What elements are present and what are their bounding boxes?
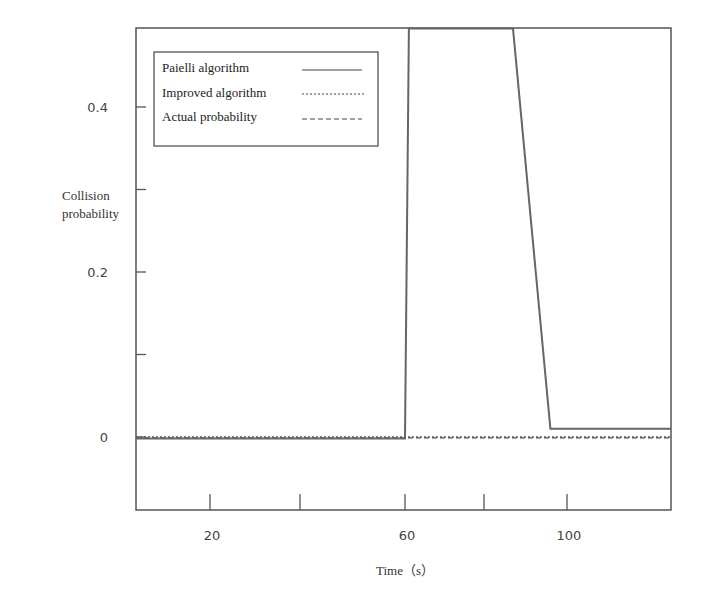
- legend-label-paielli: Paielli algorithm: [162, 60, 249, 75]
- legend-label-actual: Actual probability: [162, 109, 257, 124]
- legend-label-improved: Improved algorithm: [162, 85, 266, 100]
- collision-probability-chart: 00.20.4 2060100 Collision probability Ti…: [0, 0, 702, 614]
- y-tick-label: 0.2: [87, 265, 108, 280]
- x-tick-label: 20: [204, 528, 221, 543]
- x-tick-label: 100: [557, 528, 582, 543]
- y-tick-label: 0.4: [87, 100, 108, 115]
- y-axis-label-line2: probability: [62, 206, 120, 221]
- x-tick-label: 60: [399, 528, 416, 543]
- y-tick-label: 0: [100, 430, 108, 445]
- x-axis-label: Time（s）: [376, 563, 434, 578]
- y-axis-label-line1: Collision: [62, 188, 110, 203]
- y-axis-ticks: 00.20.4: [87, 100, 146, 445]
- legend: Paielli algorithm Improved algorithm Act…: [154, 52, 378, 146]
- x-axis-ticks: 2060100: [204, 494, 582, 543]
